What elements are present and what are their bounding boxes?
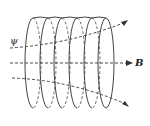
arrowheads bbox=[121, 20, 133, 107]
arrow-top-icon bbox=[121, 20, 128, 26]
arrow-middle-icon bbox=[126, 60, 133, 66]
field-label: B bbox=[135, 58, 143, 68]
flux-label: ψ bbox=[10, 36, 18, 46]
arrow-bottom-icon bbox=[122, 101, 129, 107]
flux-line-top bbox=[10, 22, 126, 48]
solenoid-diagram bbox=[0, 0, 150, 126]
